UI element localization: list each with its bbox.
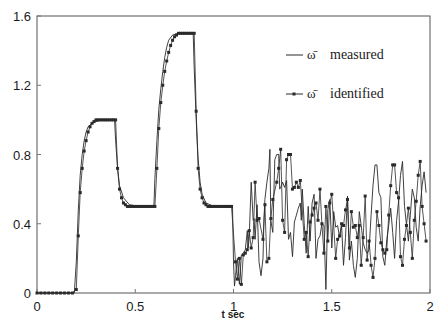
identified-marker bbox=[348, 246, 351, 249]
identified-marker bbox=[155, 167, 158, 170]
identified-marker bbox=[350, 210, 353, 213]
identified-marker bbox=[322, 252, 325, 255]
identified-marker bbox=[385, 248, 388, 251]
identified-marker bbox=[297, 186, 300, 189]
identified-marker bbox=[63, 292, 66, 295]
identified-marker bbox=[87, 130, 90, 133]
x-tick-label: 0 bbox=[33, 299, 40, 314]
identified-marker bbox=[311, 214, 314, 217]
identified-marker bbox=[157, 127, 160, 130]
y-tick-label: 0.8 bbox=[13, 148, 31, 163]
identified-marker bbox=[43, 292, 46, 295]
identified-marker bbox=[405, 224, 408, 227]
x-tick-label: 1.5 bbox=[323, 299, 341, 314]
identified-marker bbox=[407, 207, 410, 210]
identified-marker bbox=[234, 260, 237, 263]
y-tick-label: 1.6 bbox=[13, 9, 31, 24]
identified-marker bbox=[283, 231, 286, 234]
identified-marker bbox=[169, 44, 172, 47]
identified-marker bbox=[159, 101, 162, 104]
identified-marker bbox=[163, 70, 166, 73]
identified-marker bbox=[85, 139, 88, 142]
identified-marker bbox=[338, 234, 341, 237]
identified-marker bbox=[379, 241, 382, 244]
identified-marker bbox=[305, 231, 308, 234]
identified-marker bbox=[167, 51, 170, 54]
identified-marker bbox=[377, 224, 380, 227]
identified-marker bbox=[413, 219, 416, 222]
identified-marker bbox=[199, 188, 202, 191]
identified-marker bbox=[230, 205, 233, 208]
identified-marker bbox=[51, 292, 54, 295]
y-tick-label: 1.2 bbox=[13, 78, 31, 93]
identified-marker bbox=[334, 257, 337, 260]
legend-symbol-measured: ω̄ bbox=[307, 47, 318, 62]
identified-marker bbox=[368, 240, 371, 243]
identified-marker bbox=[246, 248, 249, 251]
identified-marker bbox=[77, 234, 80, 237]
identified-marker bbox=[281, 219, 284, 222]
identified-marker bbox=[336, 238, 339, 241]
identified-marker bbox=[342, 224, 345, 227]
identified-marker bbox=[265, 260, 268, 263]
identified-marker bbox=[79, 191, 82, 194]
identified-marker bbox=[195, 110, 198, 113]
identified-marker bbox=[238, 257, 241, 260]
identified-marker bbox=[240, 283, 243, 286]
identified-marker bbox=[114, 118, 117, 121]
identified-marker bbox=[389, 184, 392, 187]
legend-label-measured: measured bbox=[330, 47, 384, 62]
identified-marker bbox=[383, 252, 386, 255]
identified-marker bbox=[269, 217, 272, 220]
identified-marker bbox=[197, 167, 200, 170]
identified-marker bbox=[161, 84, 164, 87]
identified-marker bbox=[346, 198, 349, 201]
identified-marker bbox=[358, 224, 361, 227]
identified-marker bbox=[299, 179, 302, 182]
identified-marker bbox=[116, 167, 119, 170]
identified-marker bbox=[275, 181, 278, 184]
identified-marker bbox=[279, 148, 282, 151]
identified-marker bbox=[403, 238, 406, 241]
identified-marker bbox=[425, 240, 428, 243]
identified-marker bbox=[201, 196, 204, 199]
identified-marker bbox=[263, 203, 266, 206]
chart-canvas: 00.40.81.21.6 00.511.52 t sec ω̄ measure… bbox=[0, 0, 447, 334]
identified-marker bbox=[39, 292, 42, 295]
identified-marker bbox=[411, 257, 414, 260]
identified-marker bbox=[397, 196, 400, 199]
identified-marker bbox=[421, 205, 424, 208]
identified-marker bbox=[313, 207, 316, 210]
identified-marker bbox=[354, 224, 357, 227]
identified-marker bbox=[375, 210, 378, 213]
identified-marker bbox=[254, 181, 257, 184]
identified-marker bbox=[417, 174, 420, 177]
identified-marker bbox=[303, 238, 306, 241]
identified-marker bbox=[67, 292, 70, 295]
identified-marker bbox=[252, 236, 255, 239]
identified-marker bbox=[153, 205, 156, 208]
identified-marker bbox=[55, 292, 58, 295]
identified-marker bbox=[393, 163, 396, 166]
legend-marker-square-icon bbox=[293, 93, 296, 96]
identified-marker bbox=[330, 193, 333, 196]
identified-marker bbox=[248, 229, 251, 232]
identified-marker bbox=[71, 292, 74, 295]
identified-marker bbox=[409, 231, 412, 234]
identified-marker bbox=[399, 255, 402, 258]
identified-marker bbox=[320, 222, 323, 225]
identified-marker bbox=[171, 39, 174, 42]
identified-marker bbox=[316, 219, 319, 222]
x-axis-title: t sec bbox=[222, 309, 245, 320]
identified-marker bbox=[36, 292, 39, 295]
identified-marker bbox=[75, 288, 78, 291]
identified-marker bbox=[59, 292, 62, 295]
identified-marker bbox=[295, 181, 298, 184]
identified-marker bbox=[81, 167, 84, 170]
legend-label-identified: identified bbox=[330, 86, 384, 101]
identified-marker bbox=[267, 257, 270, 260]
x-tick-label: 0.5 bbox=[126, 299, 144, 314]
identified-marker bbox=[236, 278, 239, 281]
identified-marker bbox=[165, 60, 168, 63]
identified-marker bbox=[83, 150, 86, 153]
